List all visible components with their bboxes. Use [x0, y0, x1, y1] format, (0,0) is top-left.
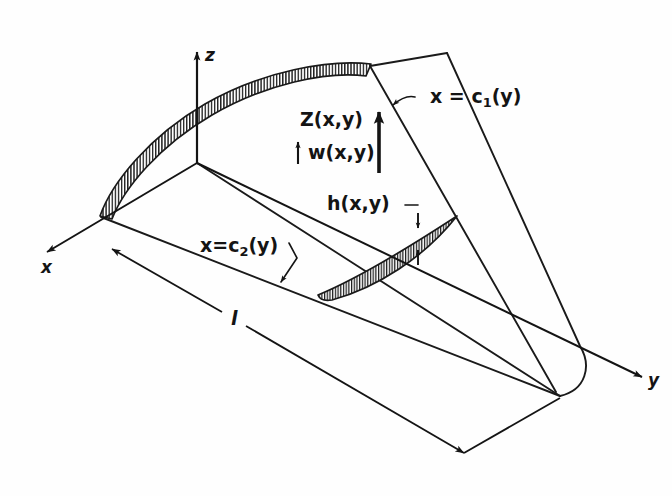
z-axis-label: z: [205, 47, 215, 64]
span-length-label: l: [231, 309, 238, 328]
c1-suffix: (y): [492, 85, 522, 107]
camber-label: Z(x,y): [300, 110, 363, 129]
wing-diagram-svg: [0, 0, 672, 496]
c1-prefix: x = c: [430, 85, 483, 107]
figure-canvas: z x y Z(x,y) w(x,y) h(x,y) x = c1(y) x=c…: [0, 0, 672, 496]
x-axis-label: x: [41, 259, 52, 276]
leading-edge-sweep-line: [370, 66, 556, 392]
c1-leader-line: [393, 96, 415, 105]
y-axis: [197, 163, 642, 377]
leading-edge-equation-label: x = c1(y): [430, 87, 521, 110]
airfoil-cross-section: [318, 216, 457, 300]
leading-edge-line-c1: [370, 53, 447, 66]
airfoil-section-fill: [318, 216, 457, 300]
span-dimension-tip-tick: [464, 398, 560, 453]
c2-prefix: x=c: [200, 234, 239, 256]
thickness-label: h(x,y): [327, 194, 390, 213]
y-axis-label: y: [648, 372, 659, 389]
c2-suffix: (y): [248, 234, 278, 256]
downwash-label: w(x,y): [308, 143, 375, 162]
trailing-edge-line: [101, 217, 560, 396]
trailing-edge-equation-label: x=c2(y): [200, 236, 278, 259]
c1-subscript: 1: [483, 95, 492, 110]
c2-leader-line: [281, 243, 297, 282]
coordinate-axes: [47, 52, 642, 377]
